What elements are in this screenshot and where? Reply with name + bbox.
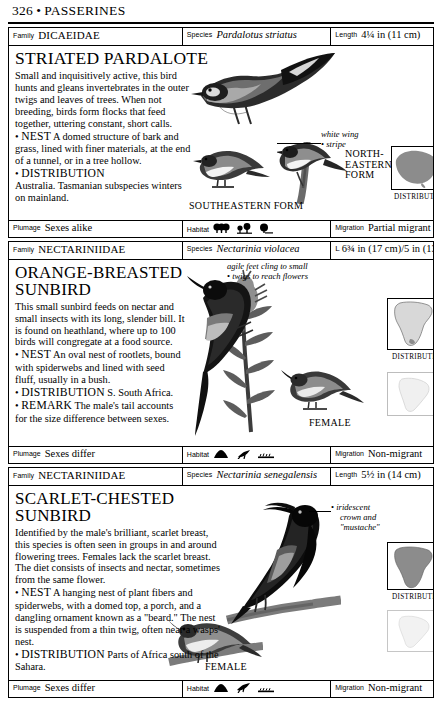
family-cell: Family NECTARINIIDAE [9, 468, 183, 485]
entry-footer-bar: Plumage Sexes alike Habitat [9, 220, 433, 237]
species-value: Pardalotus striatus [216, 29, 296, 40]
plumage-value: Sexes differ [45, 682, 95, 693]
scrub-icon [259, 223, 273, 234]
caption-northeastern-form: NORTH-EASTERN FORM [345, 149, 393, 181]
description-text: Identified by the male's brilliant, scar… [15, 527, 220, 587]
species-cell: Species Nectarinia senegalensis [183, 468, 331, 485]
entry-footer-bar: Plumage Sexes differ Habitat [9, 446, 433, 463]
entry-meta-bar: Family NECTARINIIDAE Species Nectarinia … [9, 242, 433, 260]
entry-body: white wing • stripe SOUTHEASTERN [9, 46, 433, 220]
page-header: 326•PASSERINES [6, 0, 436, 21]
migration-value: Partial migrant [368, 222, 431, 233]
northeastern-form-illustration [277, 142, 349, 204]
secondary-map-panel [387, 610, 433, 652]
caption-northeastern-form-text: NORTH-EASTERN FORM [345, 148, 392, 180]
annotation-agile-feet: agile feet cling to small • twigs to rea… [227, 262, 387, 282]
description-text: Small and inquisitively active, this bir… [15, 70, 193, 130]
habitat-icon-group [213, 223, 273, 234]
habitat-icon-group [213, 449, 274, 459]
plumage-cell: Plumage Sexes alike [9, 221, 183, 237]
annotation-line-2: twigs to reach flowers [232, 271, 308, 281]
distribution-label: DISTRIBUTION [21, 167, 105, 180]
caption-southeastern-form: SOUTHEASTERN FORM [189, 201, 303, 211]
plumage-label: Plumage [13, 224, 41, 231]
map-caption-distribution: DISTRIBUTION [392, 353, 433, 361]
species-description-block: Identified by the male's brilliant, scar… [15, 527, 220, 673]
migration-label: Migration [335, 450, 364, 457]
header-rule [8, 22, 434, 24]
species-common-name: STRIATED PARDALOTE [15, 50, 429, 68]
species-description-block: This small sunbird feeds on nectar and s… [15, 301, 187, 425]
distribution-label: DISTRIBUTION [21, 648, 105, 661]
caption-female: FEMALE [205, 662, 247, 672]
distribution-paragraph: • DISTRIBUTION Parts of Africa south of … [15, 648, 220, 673]
field-guide-page: 326•PASSERINES Family DICAEIDAE Species … [0, 0, 442, 717]
flying-bird-icon [236, 683, 251, 693]
header-separator: • [36, 3, 41, 18]
family-value: NECTARINIIDAE [38, 469, 125, 481]
length-cell: Length 4¼ in (11 cm) [331, 28, 433, 45]
migration-cell: Migration Partial migrant [331, 221, 433, 237]
migration-value: Non-migrant [368, 448, 422, 459]
description-text: This small sunbird feeds on nectar and s… [15, 301, 187, 349]
plumage-label: Plumage [13, 684, 41, 691]
annotation-line-3: "mustache" [331, 523, 411, 533]
family-label: Family [13, 472, 34, 479]
leader-line-iridescent-crown [309, 511, 331, 512]
length-cell: Length 5½ in (14 cm) [331, 468, 433, 485]
nest-paragraph: • NEST A hanging nest of plant fibers an… [15, 586, 220, 647]
species-cell: Species Nectarinia violacea [183, 242, 331, 259]
species-value: Nectarinia violacea [216, 243, 299, 254]
species-label: Species [187, 31, 213, 38]
family-cell: Family DICAEIDAE [9, 28, 183, 45]
female-orange-breasted-sunbird-illustration [281, 360, 365, 418]
plumage-cell: Plumage Sexes differ [9, 681, 183, 697]
length-cell: L 6¾ in (17 cm)/5 in (13 cm) [331, 242, 433, 259]
map-caption-distribution: DISTRIBUTION [394, 193, 433, 201]
caption-female: FEMALE [309, 418, 351, 428]
entry-body: agile feet cling to small • twigs to rea… [9, 260, 433, 446]
forest-icon [213, 223, 230, 234]
family-cell: Family NECTARINIIDAE [9, 242, 183, 259]
distribution-text: Australia. Tasmanian subspecies winters … [15, 180, 193, 204]
leader-line-white-wing-stripe [277, 143, 321, 144]
plumage-value: Sexes alike [45, 222, 93, 233]
species-description-block: Small and inquisitively active, this bir… [15, 70, 193, 204]
species-entry-orange-breasted-sunbird: Family NECTARINIIDAE Species Nectarinia … [8, 241, 434, 464]
annotation-line-1: iridescent [336, 502, 370, 512]
plumage-label: Plumage [13, 450, 41, 457]
migration-value: Non-migrant [368, 682, 422, 693]
length-value: 6¾ in (17 cm)/5 in (13 cm) [342, 243, 433, 254]
length-measure-icon: L [335, 244, 339, 253]
migration-cell: Migration Non-migrant [331, 447, 433, 463]
southeastern-form-illustration [192, 142, 272, 198]
migration-label: Migration [335, 684, 364, 691]
annotation-white-wing-stripe: white wing • stripe [321, 130, 411, 150]
nest-label: NEST [21, 348, 51, 361]
habitat-label: Habitat [187, 685, 209, 692]
entry-meta-bar: Family DICAEIDAE Species Pardalotus stri… [9, 28, 433, 46]
nest-paragraph: • NEST An oval nest of rootlets, bound w… [15, 348, 187, 385]
migration-label: Migration [335, 224, 364, 231]
distribution-paragraph: • DISTRIBUTION [15, 167, 193, 180]
length-label: Length [335, 471, 357, 478]
distribution-map-africa [387, 542, 433, 590]
migration-cell: Migration Non-migrant [331, 681, 433, 697]
species-cell: Species Pardalotus striatus [183, 28, 331, 45]
species-label: Species [187, 471, 213, 478]
entry-body: • iridescent crown and "mustache" [9, 486, 433, 680]
map-caption-distribution: DISTRIBUTION [392, 593, 433, 601]
distribution-paragraph: • DISTRIBUTION S. South Africa. [15, 386, 187, 399]
entry-meta-bar: Family NECTARINIIDAE Species Nectarinia … [9, 468, 433, 486]
habitat-icon-group [213, 683, 274, 693]
page-number: 326 [12, 3, 33, 18]
length-value: 4¼ in (11 cm) [361, 29, 420, 40]
entry-footer-bar: Plumage Sexes differ Habitat [9, 680, 433, 697]
distribution-map-africa [387, 298, 433, 350]
habitat-cell: Habitat [183, 681, 331, 697]
nest-paragraph: • NEST A domed structure of bark and gra… [15, 130, 193, 167]
open-woodland-icon [237, 223, 252, 234]
family-value: NECTARINIIDAE [38, 243, 125, 255]
distribution-label: DISTRIBUTION [21, 386, 105, 399]
distribution-text: S. South Africa. [107, 387, 173, 398]
